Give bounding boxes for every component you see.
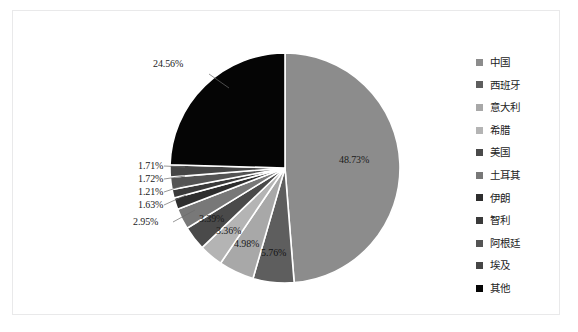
slice-label-usa: 3.39% xyxy=(199,213,224,224)
legend-label: 智利 xyxy=(490,215,510,226)
slice-label-other: 24.56% xyxy=(153,58,183,69)
legend-label: 意大利 xyxy=(490,102,520,113)
legend-swatch-icon xyxy=(476,217,483,224)
legend-label: 伊朗 xyxy=(490,193,510,204)
legend-label: 其他 xyxy=(490,283,510,294)
legend-item[interactable]: 西班牙 xyxy=(468,74,563,97)
slice-label-iran: 1.63% xyxy=(138,199,163,210)
legend-swatch-icon xyxy=(476,59,483,66)
legend-label: 希腊 xyxy=(490,125,510,136)
chart-frame: 48.73% 5.76% 4.98% 3.36% 3.39% 2.95% 1.6… xyxy=(12,10,560,315)
legend-item[interactable]: 希腊 xyxy=(468,119,563,142)
legend-item[interactable]: 土耳其 xyxy=(468,164,563,187)
legend-swatch-icon xyxy=(476,194,483,201)
chart-legend: 中国西班牙意大利希腊美国土耳其伊朗智利阿根廷埃及其他 xyxy=(468,51,563,301)
legend-item[interactable]: 其他 xyxy=(468,277,563,300)
legend-label: 土耳其 xyxy=(490,170,520,181)
slice-label-turkey: 2.95% xyxy=(133,216,158,227)
slice-label-italy: 4.98% xyxy=(234,238,259,249)
legend-item[interactable]: 智利 xyxy=(468,209,563,232)
legend-label: 西班牙 xyxy=(490,80,520,91)
legend-swatch-icon xyxy=(476,172,483,179)
legend-label: 中国 xyxy=(490,57,510,68)
legend-swatch-icon xyxy=(476,127,483,134)
slice-label-greece: 3.36% xyxy=(216,225,241,236)
slice-label-argentina: 1.72% xyxy=(138,173,163,184)
legend-item[interactable]: 阿根廷 xyxy=(468,232,563,255)
slice-label-egypt: 1.71% xyxy=(138,160,163,171)
legend-item[interactable]: 埃及 xyxy=(468,254,563,277)
legend-item[interactable]: 美国 xyxy=(468,141,563,164)
pie-chart-area: 48.73% 5.76% 4.98% 3.36% 3.39% 2.95% 1.6… xyxy=(13,11,468,316)
legend-label: 阿根廷 xyxy=(490,238,520,249)
pie-slice[interactable] xyxy=(285,53,400,283)
legend-item[interactable]: 意大利 xyxy=(468,96,563,119)
slice-label-chile: 1.21% xyxy=(138,186,163,197)
legend-swatch-icon xyxy=(476,104,483,111)
legend-swatch-icon xyxy=(476,285,483,292)
legend-swatch-icon xyxy=(476,240,483,247)
legend-item[interactable]: 中国 xyxy=(468,51,563,74)
legend-swatch-icon xyxy=(476,81,483,88)
legend-label: 美国 xyxy=(490,147,510,158)
legend-swatch-icon xyxy=(476,262,483,269)
slice-label-spain: 5.76% xyxy=(261,247,286,258)
pie-chart-svg xyxy=(13,11,468,316)
legend-swatch-icon xyxy=(476,149,483,156)
legend-item[interactable]: 伊朗 xyxy=(468,187,563,210)
legend-label: 埃及 xyxy=(490,260,510,271)
pie-slice[interactable] xyxy=(170,53,285,168)
slice-label-china: 48.73% xyxy=(339,154,369,165)
